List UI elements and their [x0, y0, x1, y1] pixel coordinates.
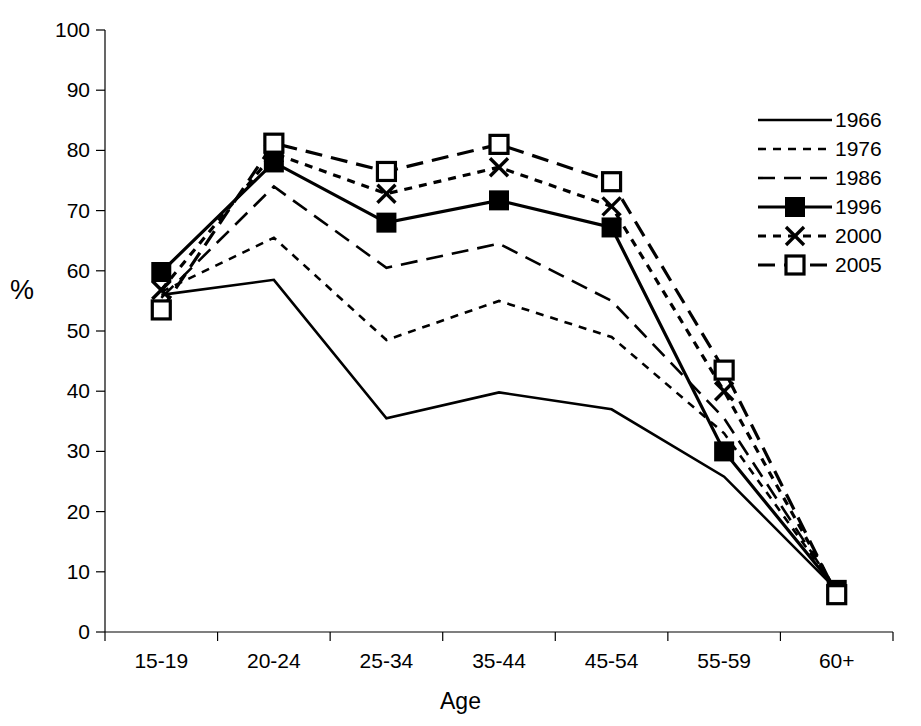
- y-tick-label: 80: [20, 139, 90, 160]
- legend-swatch-2005: [757, 252, 833, 278]
- legend-item-2005[interactable]: 2005: [757, 250, 917, 279]
- legend-label: 1996: [833, 196, 882, 217]
- marker-filled-square: [786, 198, 804, 216]
- legend-item-1966[interactable]: 1966: [757, 105, 917, 134]
- marker-filled-square: [490, 191, 508, 209]
- legend-item-1986[interactable]: 1986: [757, 163, 917, 192]
- legend-label: 1966: [833, 109, 882, 130]
- x-tick-label: 25-34: [326, 650, 446, 671]
- legend-label: 1986: [833, 167, 882, 188]
- y-axis-ticks: [96, 30, 105, 632]
- legend-swatch-1996: [757, 194, 833, 220]
- legend-swatch-1986: [757, 165, 833, 191]
- series-line: [161, 153, 836, 592]
- marker-open-square: [377, 162, 395, 180]
- marker-open-square: [715, 361, 733, 379]
- y-tick-label: 10: [20, 561, 90, 582]
- series-1986: [161, 187, 836, 592]
- data-series-layer: [152, 134, 845, 604]
- marker-open-square: [152, 301, 170, 319]
- y-tick-label: 50: [20, 320, 90, 341]
- x-axis-ticks: [105, 632, 893, 641]
- line-chart: 0102030405060708090100 15-1920-2425-3435…: [0, 0, 921, 726]
- marker-filled-square: [377, 214, 395, 232]
- legend-item-1996[interactable]: 1996: [757, 192, 917, 221]
- y-tick-label: 100: [20, 19, 90, 40]
- y-tick-label: 90: [20, 79, 90, 100]
- legend-swatch-2000: [757, 223, 833, 249]
- marker-open-square: [603, 173, 621, 191]
- y-tick-label: 30: [20, 440, 90, 461]
- x-axis-title: Age: [0, 688, 921, 715]
- marker-filled-square: [715, 442, 733, 460]
- marker-x: [603, 197, 621, 215]
- x-tick-label: 60+: [777, 650, 897, 671]
- series-line: [161, 280, 836, 590]
- marker-open-square: [786, 256, 804, 274]
- marker-filled-square: [152, 263, 170, 281]
- legend-item-1976[interactable]: 1976: [757, 134, 917, 163]
- series-2000: [152, 144, 845, 601]
- x-tick-label: 55-59: [664, 650, 784, 671]
- series-1996: [152, 153, 845, 598]
- series-line: [161, 143, 836, 595]
- y-axis-title: %: [10, 275, 34, 306]
- legend-item-2000[interactable]: 2000: [757, 221, 917, 250]
- y-tick-label: 40: [20, 380, 90, 401]
- legend-label: 2005: [833, 254, 882, 275]
- marker-open-square: [490, 135, 508, 153]
- x-tick-label: 15-19: [101, 650, 221, 671]
- legend-swatch-1966: [757, 107, 833, 133]
- legend-label: 1976: [833, 138, 882, 159]
- marker-filled-square: [603, 218, 621, 236]
- x-tick-label: 20-24: [214, 650, 334, 671]
- x-tick-label: 45-54: [552, 650, 672, 671]
- series-line: [161, 162, 836, 589]
- y-tick-label: 0: [20, 621, 90, 642]
- marker-open-square: [265, 134, 283, 152]
- series-line: [161, 238, 836, 590]
- legend-label: 2000: [833, 225, 882, 246]
- legend-swatch-1976: [757, 136, 833, 162]
- marker-open-square: [828, 586, 846, 604]
- series-1976: [161, 238, 836, 590]
- y-tick-label: 20: [20, 501, 90, 522]
- y-tick-label: 70: [20, 200, 90, 221]
- series-1966: [161, 280, 836, 590]
- x-tick-label: 35-44: [439, 650, 559, 671]
- legend: 196619761986199620002005: [757, 105, 917, 279]
- series-line: [161, 187, 836, 592]
